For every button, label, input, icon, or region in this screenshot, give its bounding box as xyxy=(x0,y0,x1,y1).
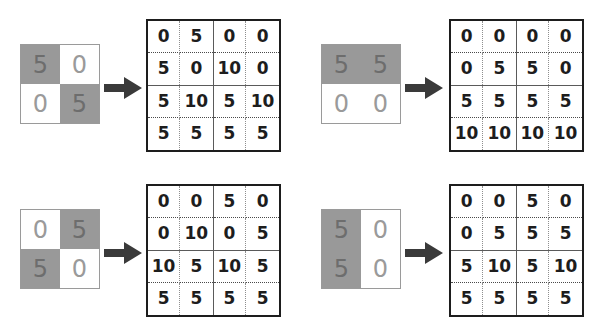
output-cell: 0 xyxy=(148,218,180,250)
output-quadrant-container: 0001050051055510555 xyxy=(148,186,279,315)
output-quadrant: 0005 xyxy=(451,186,517,251)
output-cell: 5 xyxy=(517,86,550,118)
output-cell: 0 xyxy=(451,53,483,85)
output-quadrant-container: 00050050551010551010 xyxy=(451,21,582,150)
input-cell: 0 xyxy=(60,45,99,84)
output-quadrant: 10555 xyxy=(214,251,280,316)
output-cell: 0 xyxy=(549,53,582,85)
output-quadrant: 10555 xyxy=(148,251,214,316)
output-quadrant-container: 000550555105551055 xyxy=(451,186,582,315)
output-quadrant: 551010 xyxy=(517,86,583,151)
output-cell: 10 xyxy=(180,218,212,250)
output-quadrant: 551010 xyxy=(451,86,517,151)
right-arrow-icon xyxy=(104,76,142,100)
panel-top-left-input-matrix: 5005 xyxy=(20,44,100,124)
output-cell: 5 xyxy=(483,218,515,250)
input-cell: 5 xyxy=(21,45,60,84)
input-cell: 5 xyxy=(361,45,400,84)
input-cell: 0 xyxy=(361,249,400,288)
input-cell: 5 xyxy=(322,45,361,84)
output-cell: 5 xyxy=(549,218,582,250)
output-cell: 5 xyxy=(246,218,279,250)
output-cell: 0 xyxy=(483,186,515,218)
right-arrow-icon xyxy=(405,76,443,100)
output-cell: 5 xyxy=(180,21,212,53)
output-quadrant: 0550 xyxy=(148,21,214,86)
output-cell: 10 xyxy=(148,251,180,283)
output-cell: 10 xyxy=(483,118,515,150)
panel-top-right-output-grid: 00050050551010551010 xyxy=(449,19,584,152)
output-cell: 10 xyxy=(517,118,550,150)
output-cell: 5 xyxy=(517,218,550,250)
output-cell: 5 xyxy=(451,283,483,315)
panel-bottom-left-output-grid: 0001050051055510555 xyxy=(146,184,281,317)
input-cell: 5 xyxy=(322,210,361,249)
output-cell: 10 xyxy=(451,118,483,150)
output-cell: 5 xyxy=(517,186,550,218)
output-cell: 0 xyxy=(246,21,279,53)
output-cell: 0 xyxy=(214,218,247,250)
output-cell: 0 xyxy=(246,186,279,218)
panel-top-right-input-matrix: 5500 xyxy=(321,44,401,124)
diagram-canvas: 5005055000100510555105555000005005055101… xyxy=(0,0,596,328)
output-cell: 0 xyxy=(214,21,247,53)
output-cell: 0 xyxy=(451,21,483,53)
panel-bottom-left-input-matrix: 0550 xyxy=(20,209,100,289)
input-cell: 5 xyxy=(60,210,99,249)
output-cell: 5 xyxy=(148,118,180,150)
output-cell: 5 xyxy=(549,283,582,315)
output-cell: 0 xyxy=(451,218,483,250)
output-cell: 10 xyxy=(246,86,279,118)
output-cell: 0 xyxy=(180,186,212,218)
output-cell: 0 xyxy=(148,186,180,218)
input-cell: 0 xyxy=(60,249,99,288)
input-cell: 5 xyxy=(21,249,60,288)
output-quadrant: 51055 xyxy=(451,251,517,316)
output-cell: 5 xyxy=(214,86,247,118)
output-cell: 5 xyxy=(451,86,483,118)
output-cell: 5 xyxy=(214,186,247,218)
output-cell: 5 xyxy=(180,283,212,315)
output-quadrant: 5055 xyxy=(517,186,583,251)
output-cell: 0 xyxy=(549,21,582,53)
output-cell: 5 xyxy=(148,283,180,315)
output-cell: 5 xyxy=(517,53,550,85)
output-cell: 5 xyxy=(214,118,247,150)
output-quadrant: 0050 xyxy=(517,21,583,86)
input-cell: 0 xyxy=(361,210,400,249)
output-cell: 0 xyxy=(517,21,550,53)
output-quadrant: 5005 xyxy=(214,186,280,251)
output-cell: 10 xyxy=(180,86,212,118)
panel-bottom-right-input-matrix: 5050 xyxy=(321,209,401,289)
output-cell: 10 xyxy=(214,53,247,85)
output-cell: 0 xyxy=(451,186,483,218)
output-cell: 10 xyxy=(549,251,582,283)
input-cell: 0 xyxy=(21,210,60,249)
output-quadrant: 51055 xyxy=(214,86,280,151)
output-cell: 5 xyxy=(148,86,180,118)
right-arrow-icon xyxy=(405,241,443,265)
output-cell: 0 xyxy=(246,53,279,85)
input-cell: 0 xyxy=(21,84,60,123)
output-cell: 10 xyxy=(214,251,247,283)
output-cell: 0 xyxy=(549,186,582,218)
output-quadrant: 51055 xyxy=(148,86,214,151)
output-cell: 10 xyxy=(549,118,582,150)
input-cell: 5 xyxy=(322,249,361,288)
output-cell: 0 xyxy=(148,21,180,53)
output-quadrant: 0005 xyxy=(451,21,517,86)
output-quadrant-container: 0550001005105551055 xyxy=(148,21,279,150)
output-cell: 5 xyxy=(451,251,483,283)
input-cell: 5 xyxy=(60,84,99,123)
output-cell: 5 xyxy=(246,251,279,283)
output-cell: 5 xyxy=(549,86,582,118)
output-quadrant: 00010 xyxy=(148,186,214,251)
output-cell: 5 xyxy=(517,251,550,283)
output-cell: 0 xyxy=(180,53,212,85)
panel-top-left-output-grid: 0550001005105551055 xyxy=(146,19,281,152)
output-cell: 0 xyxy=(483,21,515,53)
output-cell: 5 xyxy=(483,283,515,315)
input-cell: 0 xyxy=(322,84,361,123)
output-cell: 5 xyxy=(180,251,212,283)
output-quadrant: 51055 xyxy=(517,251,583,316)
